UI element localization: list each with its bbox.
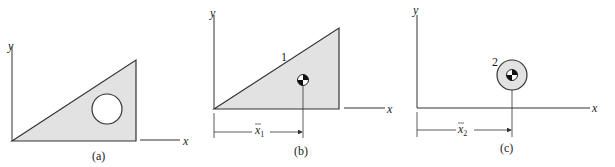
dimension-label-x1: x1 bbox=[254, 123, 264, 139]
panel-b: x1 1 x y (b) bbox=[209, 6, 393, 158]
panel-c: x2 2 x y (c) bbox=[412, 3, 598, 155]
hole bbox=[92, 94, 122, 124]
composite-area-diagram: x y (a) x1 1 x y (b) x2 2 x y (c) bbox=[0, 0, 615, 167]
centroid-icon bbox=[298, 75, 309, 86]
caption-a: (a) bbox=[92, 149, 105, 163]
y-axis-label: y bbox=[412, 3, 419, 17]
y-axis-label: y bbox=[7, 39, 14, 53]
triangle-part-1 bbox=[214, 28, 339, 109]
part-label-2: 2 bbox=[492, 55, 498, 69]
x-axis-label: x bbox=[182, 134, 189, 148]
y-axis-label: y bbox=[209, 6, 216, 20]
x-axis-label: x bbox=[591, 101, 598, 115]
centroid-icon bbox=[507, 70, 518, 81]
panel-a: x y (a) bbox=[7, 39, 189, 163]
x-axis-label: x bbox=[386, 102, 393, 116]
caption-b: (b) bbox=[294, 144, 308, 158]
part-label-1: 1 bbox=[281, 50, 287, 64]
caption-c: (c) bbox=[500, 141, 513, 155]
dimension-label-x2: x2 bbox=[457, 122, 467, 138]
